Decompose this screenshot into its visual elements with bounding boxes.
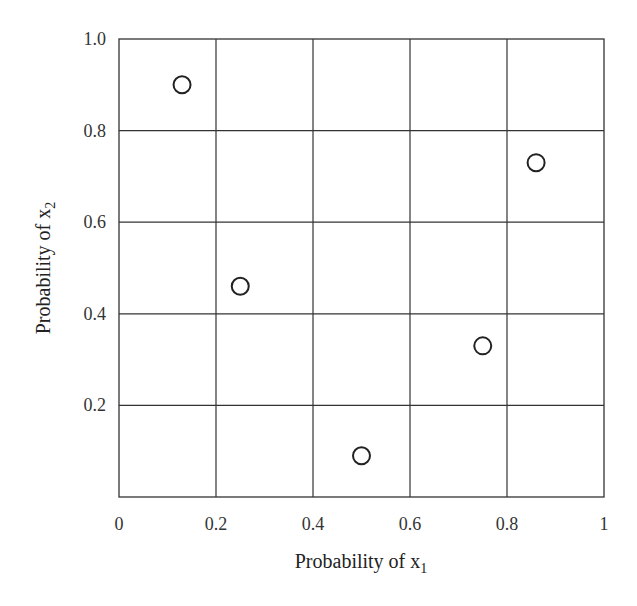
- y-tick-label: 0.2: [84, 395, 107, 415]
- y-tick-label: 0.4: [84, 304, 107, 324]
- data-point-marker: [528, 154, 545, 171]
- x-tick-label: 0.8: [496, 514, 519, 534]
- data-point-marker: [474, 337, 491, 354]
- y-axis-label-main: Probability of x: [32, 209, 55, 335]
- y-tick-label: 0.8: [84, 121, 107, 141]
- x-tick-label: 0.2: [205, 514, 228, 534]
- y-tick-label: 0.6: [84, 212, 107, 232]
- data-point-marker: [353, 447, 370, 464]
- data-point-marker: [232, 278, 249, 295]
- y-axis-label: Probability of x2: [32, 202, 58, 335]
- x-axis-label-subscript: 1: [420, 561, 427, 576]
- grid-lines: [119, 39, 604, 497]
- x-tick-label: 0.4: [302, 514, 325, 534]
- x-tick-labels: 00.20.40.60.81: [115, 514, 609, 534]
- data-point-marker: [174, 76, 191, 93]
- plot-area-frame: [119, 39, 604, 497]
- data-points: [174, 76, 545, 464]
- y-tick-label: 1.0: [84, 29, 107, 49]
- x-tick-label: 0: [115, 514, 124, 534]
- y-tick-labels: 0.20.40.60.81.0: [84, 29, 107, 415]
- x-axis-label: Probability of x1: [295, 550, 428, 576]
- x-tick-label: 1: [600, 514, 609, 534]
- scatter-chart: 00.20.40.60.81 0.20.40.60.81.0 Probabili…: [0, 0, 637, 606]
- x-axis-label-main: Probability of x: [295, 550, 421, 573]
- x-tick-label: 0.6: [399, 514, 422, 534]
- y-axis-label-subscript: 2: [43, 202, 58, 209]
